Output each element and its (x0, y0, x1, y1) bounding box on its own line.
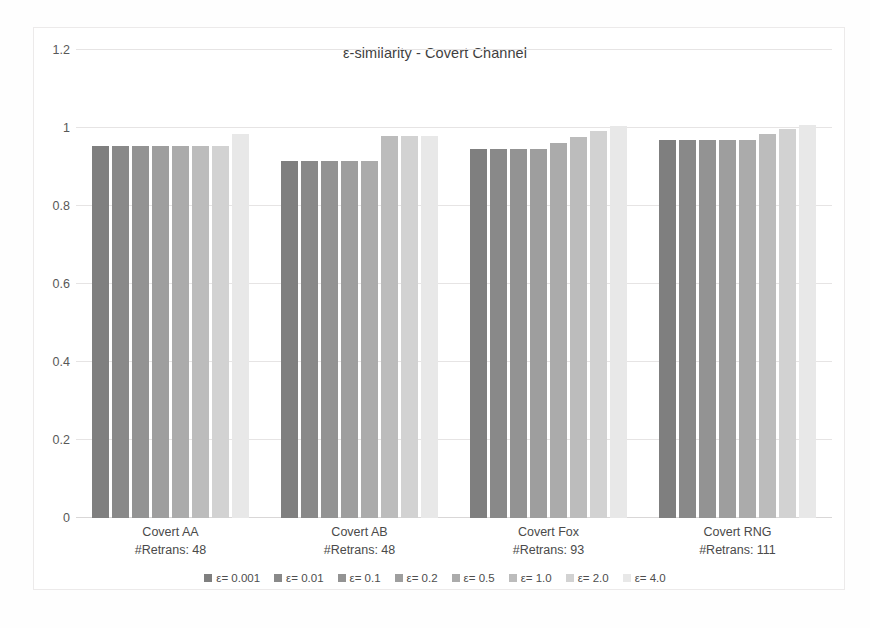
bar (232, 134, 249, 518)
bar (590, 131, 607, 518)
y-axis-tick-label: 0.6 (14, 277, 70, 291)
bar (132, 146, 149, 518)
bar (699, 140, 716, 518)
bar (659, 140, 676, 518)
legend-item[interactable]: ε= 0.5 (452, 572, 495, 584)
bar (719, 140, 736, 518)
bar (679, 140, 696, 518)
legend-item-label: ε= 0.1 (350, 572, 381, 584)
bar (530, 149, 547, 518)
chart-container: ε-similarity - Covert Channel 00.20.40.6… (0, 0, 870, 628)
x-axis-category-labels: Covert AA#Retrans: 48Covert AB#Retrans: … (76, 523, 832, 569)
category-retrans-count: #Retrans: 93 (454, 541, 643, 559)
legend-item[interactable]: ε= 0.001 (204, 572, 260, 584)
x-axis-category-label: Covert Fox#Retrans: 93 (454, 523, 643, 559)
legend-item-label: ε= 0.2 (407, 572, 438, 584)
bar (490, 149, 507, 518)
legend-item-label: ε= 0.5 (464, 572, 495, 584)
bar (192, 146, 209, 518)
legend-swatch-icon (509, 574, 517, 582)
y-axis: 00.20.40.60.811.2 (10, 50, 70, 518)
bar (212, 146, 229, 518)
y-axis-tick-label: 0 (14, 511, 70, 525)
bar-group (454, 50, 643, 518)
legend-item[interactable]: ε= 0.2 (395, 572, 438, 584)
bar (510, 149, 527, 518)
legend-swatch-icon (338, 574, 346, 582)
legend-item[interactable]: ε= 1.0 (509, 572, 552, 584)
bar (361, 161, 378, 518)
bar (341, 161, 358, 518)
legend-swatch-icon (566, 574, 574, 582)
bar (301, 161, 318, 518)
x-axis-category-label: Covert RNG#Retrans: 111 (643, 523, 832, 559)
x-axis-category-label: Covert AB#Retrans: 48 (265, 523, 454, 559)
legend-item-label: ε= 4.0 (635, 572, 666, 584)
category-name: Covert RNG (643, 523, 832, 541)
bar-group (643, 50, 832, 518)
legend-item-label: ε= 0.001 (216, 572, 260, 584)
x-axis-category-label: Covert AA#Retrans: 48 (76, 523, 265, 559)
bar (739, 140, 756, 518)
bar (799, 125, 816, 518)
bar (610, 126, 627, 518)
category-name: Covert Fox (454, 523, 643, 541)
bar (779, 129, 796, 518)
bar (570, 137, 587, 518)
bar (381, 136, 398, 518)
chart-legend: ε= 0.001ε= 0.01ε= 0.1ε= 0.2ε= 0.5ε= 1.0ε… (0, 572, 870, 584)
bar (550, 143, 567, 518)
y-axis-tick-label: 0.4 (14, 355, 70, 369)
category-name: Covert AA (76, 523, 265, 541)
plot-area (76, 50, 832, 518)
y-axis-tick-label: 0.8 (14, 199, 70, 213)
legend-swatch-icon (204, 574, 212, 582)
bar (152, 146, 169, 518)
legend-swatch-icon (395, 574, 403, 582)
bar-group (265, 50, 454, 518)
y-axis-tick-label: 0.2 (14, 433, 70, 447)
legend-item-label: ε= 0.01 (286, 572, 323, 584)
bar-series-layer (76, 50, 832, 518)
legend-swatch-icon (452, 574, 460, 582)
y-axis-tick-label: 1 (14, 121, 70, 135)
category-name: Covert AB (265, 523, 454, 541)
legend-swatch-icon (274, 574, 282, 582)
legend-swatch-icon (623, 574, 631, 582)
legend-item[interactable]: ε= 0.01 (274, 572, 323, 584)
bar (281, 161, 298, 518)
bar (470, 149, 487, 518)
bar (172, 146, 189, 518)
bar (92, 146, 109, 518)
category-retrans-count: #Retrans: 111 (643, 541, 832, 559)
category-retrans-count: #Retrans: 48 (76, 541, 265, 559)
bar-group (76, 50, 265, 518)
legend-item-label: ε= 2.0 (578, 572, 609, 584)
legend-item[interactable]: ε= 4.0 (623, 572, 666, 584)
legend-item-label: ε= 1.0 (521, 572, 552, 584)
bar (421, 136, 438, 518)
legend-item[interactable]: ε= 2.0 (566, 572, 609, 584)
bar (759, 134, 776, 518)
bar (112, 146, 129, 518)
y-axis-tick-label: 1.2 (14, 43, 70, 57)
category-retrans-count: #Retrans: 48 (265, 541, 454, 559)
bar (401, 136, 418, 518)
legend-item[interactable]: ε= 0.1 (338, 572, 381, 584)
bar (321, 161, 338, 518)
